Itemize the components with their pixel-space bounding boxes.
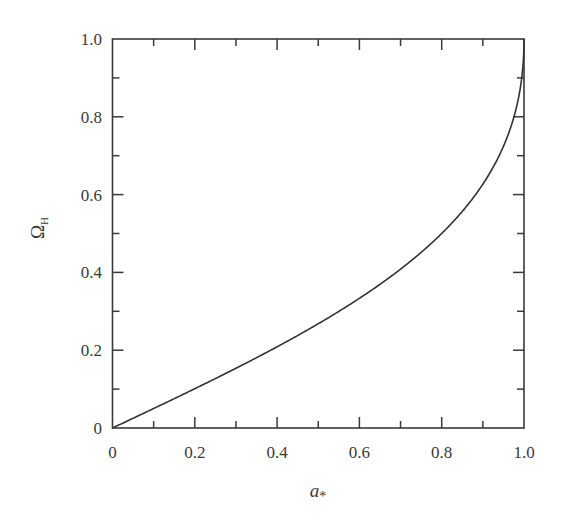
y-tick-label: 1.0 [81,30,102,49]
x-tick-label: 0.2 [184,443,205,462]
y-tick-label: 0.8 [81,108,102,127]
y-axis-label: ΩH [27,217,50,239]
chart: 00.20.40.60.81.0 00.20.40.60.81.0 a* ΩH [0,0,562,524]
y-tick-label: 0.4 [81,263,103,282]
axis-ticks [113,39,525,428]
y-tick-label: 0 [94,419,103,438]
x-tick-label: 0.8 [431,443,452,462]
x-tick-label: 0.6 [349,443,370,462]
x-tick-labels: 00.20.40.60.81.0 [108,443,534,462]
x-tick-label: 0.4 [266,443,288,462]
x-axis-label: a* [310,480,327,504]
plot-frame [113,39,525,428]
y-tick-label: 0.6 [81,186,102,205]
data-line [113,39,525,428]
x-tick-label: 0 [108,443,117,462]
y-tick-labels: 00.20.40.60.81.0 [81,30,103,438]
x-tick-label: 1.0 [513,443,534,462]
y-tick-label: 0.2 [81,341,102,360]
